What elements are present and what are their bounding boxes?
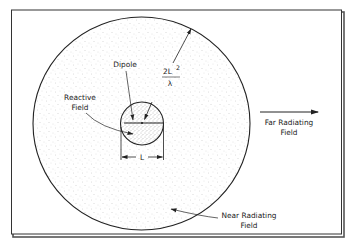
formula-denominator: λ [168, 79, 173, 88]
near-field-label-line1: Near Radiating [221, 211, 276, 220]
far-field-label-line2: Field [280, 128, 297, 137]
formula-numerator: 2L [163, 67, 173, 76]
far-field-label-line1: Far Radiating [265, 118, 314, 127]
formula-exponent: 2 [176, 64, 180, 71]
reactive-field-label-line1: Reactive [64, 93, 96, 102]
dipole-label: Dipole [113, 60, 137, 69]
reactive-field-label-line2: Field [71, 103, 88, 112]
near-field-label-line2: Field [240, 221, 257, 230]
field-regions-diagram: L Dipole Reactive Field 2L 2 λ Far Radia… [0, 0, 345, 240]
